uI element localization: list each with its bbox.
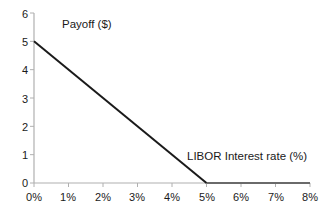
y-axis xyxy=(30,13,34,183)
x-axis-title: LIBOR Interest rate (%) xyxy=(187,150,307,163)
x-tick-label-7: 7% xyxy=(261,192,291,203)
y-tick-label-6: 6 xyxy=(8,9,28,20)
x-tick-label-8: 8% xyxy=(295,192,323,203)
x-tick-label-1: 1% xyxy=(53,192,83,203)
y-axis-title: Payoff ($) xyxy=(62,18,112,31)
x-tick-label-6: 6% xyxy=(226,192,256,203)
payoff-chart: 6 5 4 3 2 1 0 0% 1% 2% 3% 4% 5% 6% 7% 8%… xyxy=(0,0,323,218)
y-tick-label-0: 0 xyxy=(8,178,28,189)
chart-canvas xyxy=(0,0,323,218)
y-tick-label-4: 4 xyxy=(8,65,28,76)
y-tick-label-2: 2 xyxy=(8,122,28,133)
x-tick-label-4: 4% xyxy=(157,192,187,203)
x-tick-label-0: 0% xyxy=(19,192,49,203)
y-tick-label-5: 5 xyxy=(8,37,28,48)
x-tick-label-2: 2% xyxy=(88,192,118,203)
y-tick-label-1: 1 xyxy=(8,150,28,161)
y-tick-label-3: 3 xyxy=(8,94,28,105)
x-tick-label-5: 5% xyxy=(192,192,222,203)
x-tick-label-3: 3% xyxy=(122,192,152,203)
